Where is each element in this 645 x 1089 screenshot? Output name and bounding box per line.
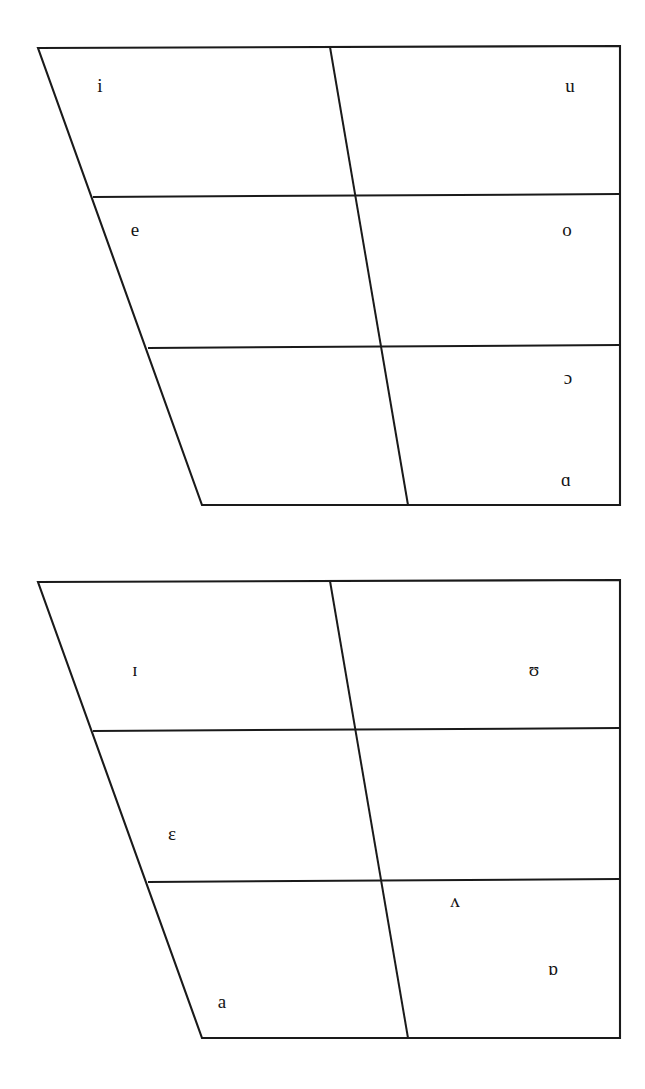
vowel-label-epsilon: ɛ <box>168 823 176 844</box>
vowel-label-e: e <box>131 219 139 240</box>
vowel-label-o: o <box>562 219 572 240</box>
upper-quadrilateral-outline <box>38 46 620 505</box>
vowel-label-upsilon: ʊ <box>529 659 539 680</box>
vowel-label-open-o: ɔ <box>564 367 572 388</box>
vowel-label-turned-v: ʌ <box>450 890 460 911</box>
vowel-label-u: u <box>565 75 575 96</box>
vowel-label-turned-script-a: ɒ <box>548 958 558 979</box>
vowel-chart-figure: i u e o ɔ ɑ ɪ ʊ ɛ ʌ ɒ a <box>0 0 645 1089</box>
upper-quadrilateral-group: i u e o ɔ ɑ <box>38 46 620 505</box>
lower-quadrilateral-outline <box>38 580 620 1038</box>
vowel-quadrilateral-diagram: i u e o ɔ ɑ ɪ ʊ ɛ ʌ ɒ a <box>0 0 645 1089</box>
lower-quadrilateral-group: ɪ ʊ ɛ ʌ ɒ a <box>38 580 620 1038</box>
vowel-label-a: a <box>218 991 227 1012</box>
vowel-label-small-cap-i: ɪ <box>132 659 137 680</box>
vowel-label-script-a: ɑ <box>561 469 571 490</box>
vowel-label-i: i <box>97 75 102 96</box>
